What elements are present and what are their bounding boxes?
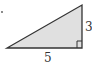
triangle-shape	[7, 5, 82, 48]
dot-mark	[1, 11, 3, 13]
height-label: 3	[85, 20, 92, 34]
base-label: 5	[44, 51, 52, 65]
right-triangle-diagram: 3 5	[0, 0, 92, 69]
